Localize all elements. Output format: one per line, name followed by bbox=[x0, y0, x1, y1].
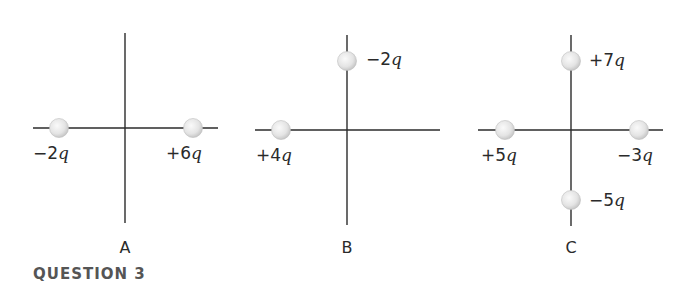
charge-label: +4q bbox=[256, 147, 292, 164]
panel-label: A bbox=[120, 240, 131, 256]
charged-particle bbox=[496, 121, 515, 140]
charged-particle bbox=[338, 52, 357, 71]
charge-label: −5q bbox=[589, 192, 625, 209]
charge-label: −2q bbox=[366, 51, 402, 68]
charge-label: +5q bbox=[481, 147, 517, 164]
panel-label: B bbox=[342, 240, 353, 256]
charged-particle bbox=[562, 52, 581, 71]
charge-label: +7q bbox=[589, 52, 625, 69]
charge-label: +6q bbox=[166, 145, 202, 162]
charged-particle bbox=[272, 121, 291, 140]
panel-label: C bbox=[565, 240, 576, 256]
charged-particle bbox=[50, 119, 69, 138]
charge-label: −3q bbox=[617, 147, 653, 164]
charged-particle bbox=[630, 121, 649, 140]
charged-particle bbox=[184, 119, 203, 138]
question-title: QUESTION 3 bbox=[33, 265, 146, 283]
charged-particle bbox=[562, 191, 581, 210]
charge-label: −2q bbox=[33, 145, 69, 162]
